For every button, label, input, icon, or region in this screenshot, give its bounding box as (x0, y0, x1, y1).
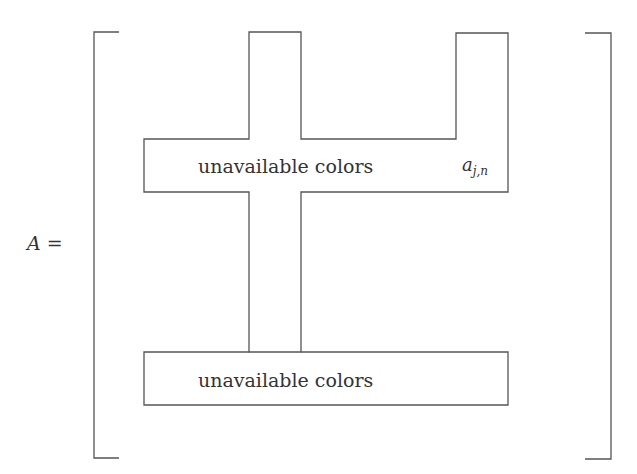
entry-subscript: j,n (473, 164, 488, 178)
entry-base: a (462, 154, 473, 175)
matrix-shape-canvas (0, 0, 637, 474)
equals-sign: = (47, 232, 63, 254)
left-bracket (94, 32, 119, 458)
right-bracket (585, 33, 611, 459)
matrix-diagram: A = unavailable colors aj,n unavailable … (0, 0, 637, 474)
matrix-lhs: A = (27, 232, 63, 254)
top-row-label: unavailable colors (198, 155, 373, 177)
bottom-row-label: unavailable colors (198, 369, 373, 391)
unavailable-region-outline (144, 32, 508, 352)
matrix-entry: aj,n (462, 154, 488, 178)
matrix-variable: A (27, 232, 41, 254)
